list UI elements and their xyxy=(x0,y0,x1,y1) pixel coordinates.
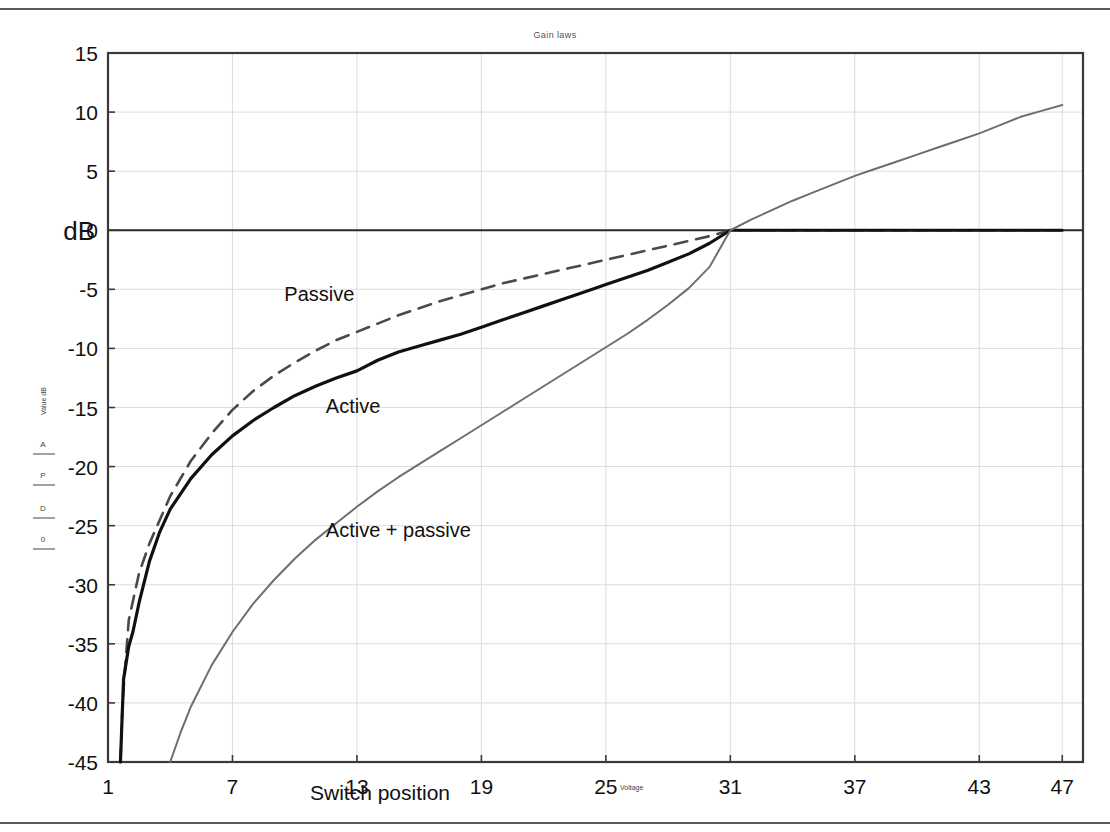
y-tick-label: -10 xyxy=(68,337,98,360)
x-tick-label: 43 xyxy=(968,775,991,798)
y-tick-label: -40 xyxy=(68,692,98,715)
x-tick-label: 47 xyxy=(1051,775,1074,798)
series-line xyxy=(120,230,1062,762)
inner-x-axis-label: Voltage xyxy=(620,784,643,792)
x-tick-label: 37 xyxy=(843,775,866,798)
inner-legend-entry-2: D xyxy=(40,504,46,513)
x-tick-label: 31 xyxy=(719,775,742,798)
x-tick-label: 7 xyxy=(227,775,239,798)
inner-legend-entry-1: P xyxy=(40,471,45,480)
gain-laws-chart: 151050-5-10-15-20-25-30-35-40-45 1713192… xyxy=(0,0,1110,832)
series-line xyxy=(170,105,1062,762)
x-tick-label: 19 xyxy=(470,775,493,798)
curve-annotation: Active + passive xyxy=(326,519,471,541)
y-tick-label: 10 xyxy=(75,101,98,124)
inner-y-axis-label: Value dB xyxy=(40,387,47,415)
y-axis-unit-label: dB xyxy=(63,216,95,246)
y-tick-label: -25 xyxy=(68,515,98,538)
curve-annotation: Passive xyxy=(284,283,354,305)
series-layer xyxy=(120,105,1062,762)
inner-legend-entry-0: A xyxy=(40,440,46,449)
series-line xyxy=(120,230,1062,762)
y-tick-label: 15 xyxy=(75,42,98,65)
embedded-plot-decorations: Value dB Voltage A P D 0 xyxy=(33,387,643,792)
y-tick-label: -5 xyxy=(79,278,98,301)
y-tick-label: -20 xyxy=(68,456,98,479)
y-tick-label: -30 xyxy=(68,574,98,597)
gridlines xyxy=(108,53,1083,762)
y-tick-label: -45 xyxy=(68,751,98,774)
inner-legend-entry-3: 0 xyxy=(41,535,46,544)
curve-annotation: Active xyxy=(326,395,380,417)
screenshot-root: Gain laws 151050-5-10-15-20-25-30-35-40-… xyxy=(0,0,1110,832)
x-tick-label: 1 xyxy=(102,775,114,798)
curve-annotations: PassiveActiveActive + passive xyxy=(284,283,471,541)
y-tick-label: -35 xyxy=(68,633,98,656)
x-tick-label: 25 xyxy=(594,775,617,798)
inner-legend: A P D 0 xyxy=(33,440,55,549)
y-tick-label: 5 xyxy=(86,160,98,183)
x-axis-title: Switch position xyxy=(310,781,450,804)
y-tick-label: -15 xyxy=(68,397,98,420)
